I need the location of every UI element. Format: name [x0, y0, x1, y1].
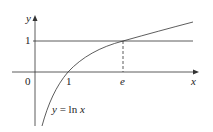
ln-graph	[0, 0, 213, 132]
curve-label: y = ln x	[52, 104, 85, 115]
origin-label: 0	[25, 76, 31, 87]
y-axis-arrow-icon	[33, 15, 38, 21]
x-axis-label: x	[191, 76, 196, 87]
y-tick-1: 1	[25, 35, 31, 46]
curve-label-x: x	[80, 103, 85, 115]
curve-label-eq: = ln	[57, 103, 80, 115]
x-tick-1: 1	[66, 76, 72, 87]
x-axis-arrow-icon	[193, 70, 199, 75]
y-axis-label: y	[26, 13, 31, 24]
x-tick-e: e	[120, 76, 125, 87]
